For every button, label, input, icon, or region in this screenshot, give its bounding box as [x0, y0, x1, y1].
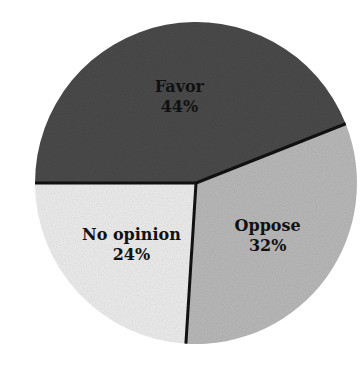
pie-chart: Favor44%Oppose32%No opinion24%	[0, 0, 361, 369]
slice-label-name: Favor	[155, 77, 205, 96]
slice-label-percent: 44%	[161, 97, 198, 116]
slice-label-percent: 32%	[249, 236, 286, 255]
slice-label-percent: 24%	[113, 245, 150, 264]
slice-label-name: Oppose	[235, 216, 301, 235]
slice-label-name: No opinion	[82, 225, 181, 244]
